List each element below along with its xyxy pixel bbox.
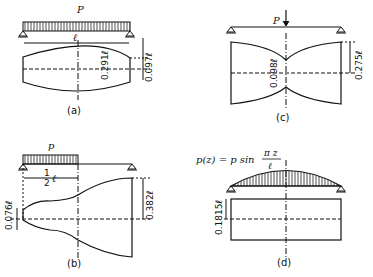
uniform-load-a: [23, 22, 130, 31]
load-label-c: P: [272, 15, 280, 26]
load-label-d: p(z) = p sin: [196, 154, 255, 165]
support-right-a: [125, 31, 135, 37]
dim-label-b1: 0.076ℓ: [4, 201, 14, 230]
figure-c: P 0.098ℓ 0.275ℓ (c): [226, 10, 364, 123]
figure-d: p(z) = p sin π z ℓ 0.1815ℓ (d): [196, 148, 346, 268]
load-frac-num-d: π z: [263, 148, 278, 158]
span-label-b: ℓ: [52, 173, 56, 184]
support-right-d: [336, 186, 346, 192]
support-right-c: [336, 27, 346, 33]
support-left-c: [226, 27, 236, 33]
caption-a: (a): [67, 105, 81, 116]
figure-b: p 1 2 ℓ 0.076ℓ 0.382ℓ (b): [4, 140, 155, 269]
figure-a: P ℓ 0.291ℓ 0.097ℓ (a): [18, 4, 154, 116]
load-label-b: p: [48, 140, 55, 151]
support-left-d: [226, 186, 236, 192]
support-right-b: [127, 164, 137, 170]
section-shape-a: [23, 46, 130, 91]
dim-label-c1: 0.098ℓ: [269, 59, 279, 88]
span-label-a: ℓ: [73, 32, 77, 43]
load-frac-den-d: ℓ: [268, 161, 272, 171]
dim-label-b2: 0.382ℓ: [145, 191, 155, 220]
caption-d: (d): [277, 257, 291, 268]
half-num-b: 1: [44, 168, 50, 178]
load-label-a: P: [76, 4, 84, 15]
dim-label-a1: 0.291ℓ: [100, 51, 110, 80]
beam-diagrams: P ℓ 0.291ℓ 0.097ℓ (a) P: [0, 0, 373, 277]
dim-label-c2: 0.275ℓ: [354, 51, 364, 80]
dim-label-a2: 0.097ℓ: [144, 53, 154, 82]
partial-load-b: [23, 155, 78, 164]
caption-c: (c): [276, 112, 289, 123]
dim-label-d1: 0.1815ℓ: [214, 200, 224, 235]
support-left-a: [18, 31, 28, 37]
half-den-b: 2: [44, 178, 50, 188]
caption-b: (b): [67, 258, 81, 269]
